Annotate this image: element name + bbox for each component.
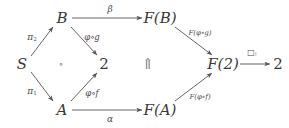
edge-label-F-phi-circ-g: F(φ∘g) [188, 30, 211, 37]
node-F-of-two: F(2) [207, 57, 239, 72]
edge-label-pi-2: π2 [27, 33, 36, 43]
edge-label-pi-1-subscript: 1 [33, 90, 37, 96]
node-A: A [57, 103, 68, 118]
node-F-of-A: F(A) [144, 103, 177, 118]
double-up-arrow-icon: ⇑ [142, 57, 155, 72]
edge-label-unique-box: □! [247, 49, 257, 58]
edge-label-pi-2-subscript: 2 [33, 36, 37, 42]
edge-label-phi-circ-f: φ∘f [85, 89, 98, 98]
edge-label-alpha: α [107, 115, 113, 124]
node-S: S [17, 57, 27, 72]
composition-circle-icon: ∘ [59, 60, 63, 69]
box-icon: □ [247, 48, 255, 57]
edge-label-pi-1: π1 [27, 87, 36, 97]
node-two-left: 2 [99, 57, 109, 72]
node-two-right: 2 [273, 57, 283, 72]
edge-label-F-phi-circ-f: F(φ∘f) [189, 94, 210, 101]
commutative-diagram: S B A 2 F(B) F(A) F(2) 2 π2 π1 φ∘g φ∘f β… [0, 0, 289, 128]
edge-label-beta: β [107, 5, 112, 14]
node-B: B [56, 11, 67, 26]
edge-label-phi-circ-g: φ∘g [84, 33, 100, 42]
box-subscript: ! [255, 52, 257, 57]
node-F-of-B: F(B) [143, 11, 176, 26]
